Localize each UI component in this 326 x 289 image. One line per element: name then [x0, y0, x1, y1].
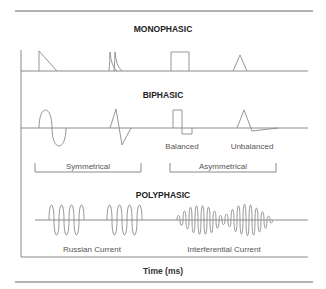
balanced-label: Balanced — [165, 142, 198, 151]
russian-current-label: Russian Current — [63, 245, 122, 254]
triangular-pulse-waveform — [233, 55, 247, 71]
unbalanced-label: Unbalanced — [231, 142, 274, 151]
asymmetrical-label: Asymmetrical — [199, 162, 247, 171]
symmetrical-label: Symmetrical — [66, 162, 110, 171]
polyphasic-title: POLYPHASIC — [136, 190, 190, 200]
balanced-rectangular-waveform — [173, 110, 192, 134]
twin-spike-waveform — [109, 52, 122, 71]
x-axis-label: Time (ms) — [143, 266, 183, 276]
interferential-current-label: Interferential Current — [187, 245, 261, 254]
biphasic-title: BIPHASIC — [143, 90, 184, 100]
sawtooth-pulse-waveform — [39, 51, 57, 71]
monophasic-title: MONOPHASIC — [134, 24, 193, 34]
waveform-diagram: MONOPHASIC BIPHASIC Balanced Unbalanced … — [0, 0, 326, 289]
triangular-biphasic-waveform — [110, 109, 131, 145]
rectangular-pulse-waveform — [171, 52, 189, 71]
